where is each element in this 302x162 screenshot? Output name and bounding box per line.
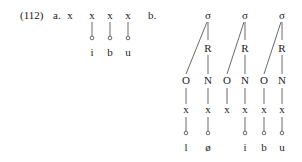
part-a-skeleton: x x i x b x u (67, 9, 131, 58)
onset-node: O (182, 74, 190, 86)
sigma-node: σ (242, 9, 248, 21)
rime-node: R (241, 42, 249, 54)
nucleus-node: N (278, 74, 286, 86)
skeletal-slot: x (89, 9, 95, 21)
nucleus-node: N (241, 74, 249, 86)
skeletal-slot: x (125, 9, 131, 21)
rime-node: R (278, 42, 286, 54)
syllable-tree-3: σ R O N x x b u (260, 9, 286, 153)
syllable-tree-1: σ R O N x x l ø (182, 9, 212, 153)
root-node-circle (90, 36, 94, 40)
example-number: (112) (20, 9, 44, 22)
root-node-circle (184, 131, 188, 135)
nucleus-node: N (204, 74, 212, 86)
rime-node: R (204, 42, 212, 54)
root-node-circle (280, 131, 284, 135)
skeletal-slot: x (242, 103, 248, 115)
skeletal-slot: x (107, 9, 113, 21)
skeletal-slot: x (183, 103, 189, 115)
segment: u (125, 46, 131, 58)
sigma-node: σ (279, 9, 285, 21)
skeletal-slot: x (67, 9, 73, 21)
skeletal-slot: x (261, 103, 267, 115)
segment: b (261, 141, 267, 153)
segment: ø (205, 141, 211, 153)
skeletal-slot: x (279, 103, 285, 115)
syllable-tree-2: σ R O N x x i (223, 9, 249, 153)
segment: l (184, 141, 187, 153)
part-a-label: a. (53, 9, 61, 21)
onset-node: O (223, 74, 231, 86)
syllable-structure-diagram: (112) a. x x i x b x u b. σ R O N x x l (0, 0, 302, 162)
root-node-circle (126, 36, 130, 40)
segment: b (107, 46, 113, 58)
root-node-circle (108, 36, 112, 40)
skeletal-slot: x (224, 103, 230, 115)
segment: i (90, 46, 93, 58)
segment: i (243, 141, 246, 153)
root-node-circle (206, 131, 210, 135)
onset-node: O (260, 74, 268, 86)
part-b-label: b. (148, 9, 157, 21)
root-node-circle (262, 131, 266, 135)
root-node-circle (243, 131, 247, 135)
sigma-node: σ (205, 9, 211, 21)
segment: u (279, 141, 285, 153)
skeletal-slot: x (205, 103, 211, 115)
